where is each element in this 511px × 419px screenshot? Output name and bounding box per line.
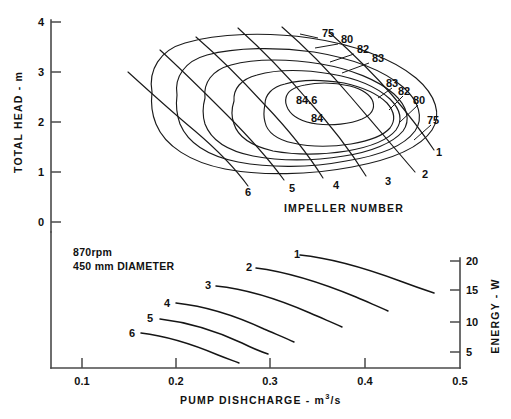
power-curve-3 <box>216 286 342 327</box>
efficiency-label-peak-84-6: 84.6 <box>296 94 317 106</box>
impeller-label-head-4: 4 <box>333 179 340 191</box>
power-curve-1 <box>300 255 434 293</box>
power-curve-2 <box>256 268 388 311</box>
energy-tick-label-15: 15 <box>466 284 478 296</box>
impeller-number-caption: IMPELLER NUMBER <box>284 202 404 214</box>
energy-tick-label-20: 20 <box>466 255 478 267</box>
discharge-x-ticks <box>82 358 365 368</box>
efficiency-label-right-80: 80 <box>413 94 425 106</box>
energy-y-axis-title: ENERGY - W <box>489 278 501 353</box>
efficiency-label-right-83: 83 <box>386 77 398 89</box>
power-curve-6 <box>141 333 239 363</box>
diameter-annotation: 450 mm DIAMETER <box>73 260 174 272</box>
efficiency-label-top-80: 80 <box>341 33 353 45</box>
head-y-ticks <box>51 22 61 222</box>
efficiency-contour-80 <box>176 49 419 167</box>
efficiency-label-top-82: 82 <box>357 43 369 55</box>
head-tick-label-3: 3 <box>38 66 44 78</box>
head-tick-label-2: 2 <box>38 116 44 128</box>
discharge-axis-title-main: PUMP DISHCHARGE - m <box>180 394 325 406</box>
discharge-tick-label-0-5: 0.5 <box>452 375 467 387</box>
impeller-curve-group <box>128 27 434 186</box>
head-tick-label-4: 4 <box>38 16 45 28</box>
efficiency-label-right-82: 82 <box>398 85 410 97</box>
efficiency-label-top-83: 83 <box>372 52 384 64</box>
discharge-tick-label-0-3: 0.3 <box>262 375 277 387</box>
head-tick-label-1: 1 <box>38 166 44 178</box>
energy-tick-label-5: 5 <box>466 346 472 358</box>
impeller-label-head-1: 1 <box>436 146 442 158</box>
impeller-label-head-3: 3 <box>385 175 391 187</box>
discharge-tick-label-0-1: 0.1 <box>74 375 89 387</box>
head-plot: 4 3 2 1 0 TOTAL HEAD - m <box>12 16 442 232</box>
energy-y-ticks <box>450 261 460 352</box>
impeller-label-head-2: 2 <box>422 168 428 180</box>
discharge-axis-title-tail: /s <box>331 394 342 406</box>
efficiency-contour-group <box>151 34 437 173</box>
head-tick-label-0: 0 <box>38 216 44 228</box>
power-curve-group <box>141 255 434 363</box>
speed-annotation: 870rpm <box>73 246 112 258</box>
power-label-2: 2 <box>246 261 252 273</box>
impeller-label-head-6: 6 <box>245 186 251 198</box>
pump-performance-figure: 4 3 2 1 0 TOTAL HEAD - m <box>0 0 511 419</box>
efficiency-label-top-75: 75 <box>322 27 334 39</box>
power-curve-4 <box>176 303 294 342</box>
power-label-4: 4 <box>164 297 171 309</box>
impeller-curve-6 <box>128 72 248 186</box>
power-label-3: 3 <box>205 279 211 291</box>
energy-plot: 0.1 0.2 0.3 0.4 0.5 PUMP DISHCHARGE - m3… <box>51 232 501 406</box>
head-y-axis-title: TOTAL HEAD - m <box>12 71 24 173</box>
power-label-6: 6 <box>129 327 135 339</box>
efficiency-label-84: 84 <box>311 112 324 124</box>
discharge-tick-label-0-4: 0.4 <box>357 375 373 387</box>
discharge-x-axis-title: PUMP DISHCHARGE - m3/s <box>180 392 342 406</box>
power-label-1: 1 <box>294 248 300 260</box>
discharge-tick-label-0-2: 0.2 <box>168 375 183 387</box>
impeller-label-head-5: 5 <box>289 182 295 194</box>
impeller-curve-5 <box>160 50 284 180</box>
energy-tick-label-10: 10 <box>466 316 478 328</box>
chart-canvas: 4 3 2 1 0 TOTAL HEAD - m <box>0 0 511 419</box>
efficiency-label-right-75: 75 <box>427 114 439 126</box>
power-label-5: 5 <box>147 312 153 324</box>
efficiency-contour-84 <box>264 81 394 147</box>
